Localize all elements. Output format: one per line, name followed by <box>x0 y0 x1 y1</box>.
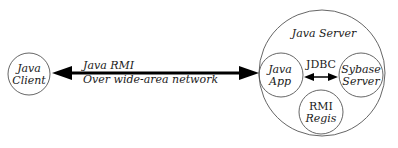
arrowhead-left-icon <box>304 73 314 81</box>
arrowhead-left-icon <box>52 66 72 80</box>
sybase-server-label: Sybase Server <box>341 64 381 88</box>
arrowhead-right-icon <box>239 66 259 80</box>
java-client-label: Java Client <box>12 63 45 87</box>
rmi-edge-label: Java RMI Over wide-area network <box>83 60 218 86</box>
sybase-server-line-2: Server <box>341 76 381 88</box>
jdbc-arrow <box>304 73 338 81</box>
java-client-line-2: Client <box>12 75 45 87</box>
rmi-edge-label-line-2: Over wide-area network <box>83 74 218 86</box>
arrowhead-right-icon <box>328 73 338 81</box>
java-app-label: Java App <box>268 64 292 88</box>
rmi-registry-line-2: Regis <box>306 113 337 125</box>
rmi-registry-label: RMI Regis <box>306 101 337 125</box>
jdbc-label: JDBC <box>306 59 336 70</box>
java-app-line-2: App <box>268 76 292 88</box>
java-server-label: Java Server <box>292 28 357 39</box>
rmi-edge-label-line-1: Java RMI <box>83 60 218 72</box>
